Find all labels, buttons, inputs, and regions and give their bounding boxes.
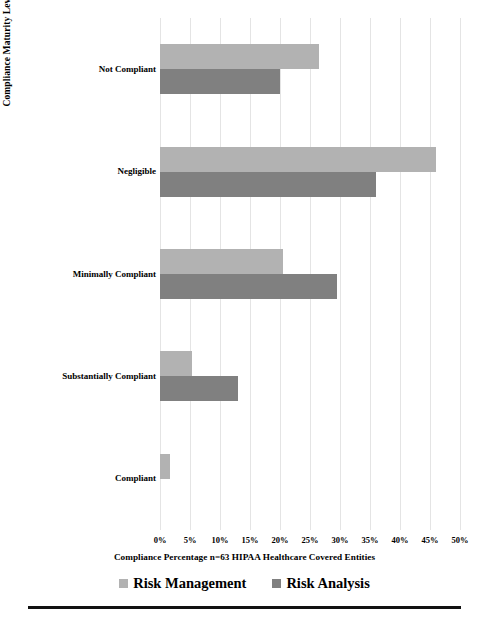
y-axis-label-not-compliant: Not Compliant (4, 64, 156, 75)
y-axis-label-negligible: Negligible (4, 166, 156, 177)
chart-legend: Risk ManagementRisk Analysis (0, 575, 489, 591)
x-tick-50pct: 50% (440, 534, 480, 546)
plot-area (160, 18, 460, 530)
y-axis-category-labels: Not CompliantNegligibleMinimally Complia… (0, 0, 156, 530)
y-axis-label-compliant: Compliant (4, 473, 156, 484)
bar-risk-management-negligible (160, 147, 436, 172)
bottom-divider (28, 606, 461, 609)
gridline-35pct (370, 18, 371, 530)
bar-risk-analysis-substantially-compliant (160, 376, 238, 401)
bar-risk-analysis-negligible (160, 172, 376, 197)
gridline-45pct (430, 18, 431, 530)
bar-risk-management-substantially-compliant (160, 351, 192, 376)
legend-item-risk-management[interactable]: Risk Management (119, 575, 246, 591)
legend-label-risk-management: Risk Management (133, 575, 246, 591)
gridline-40pct (400, 18, 401, 530)
gridline-30pct (340, 18, 341, 530)
bar-risk-management-not-compliant (160, 44, 319, 69)
legend-label-risk-analysis: Risk Analysis (286, 575, 369, 591)
legend-swatch-risk-analysis-icon (272, 579, 281, 588)
y-axis-label-substantially-compliant: Substantially Compliant (4, 371, 156, 382)
bar-risk-management-minimally-compliant (160, 249, 283, 274)
bar-risk-analysis-not-compliant (160, 69, 280, 94)
bar-chart-figure: Compliance Maturity Level Not CompliantN… (0, 0, 489, 630)
gridline-50pct (460, 18, 461, 530)
legend-swatch-risk-management-icon (119, 579, 128, 588)
bar-risk-management-compliant (160, 454, 170, 479)
bar-risk-analysis-minimally-compliant (160, 274, 337, 299)
y-axis-label-minimally-compliant: Minimally Compliant (4, 269, 156, 280)
x-axis-tick-labels: 0%5%10%15%20%25%30%35%40%45%50% (160, 534, 470, 548)
x-axis-title: Compliance Percentage n=63 HIPAA Healthc… (0, 552, 489, 562)
legend-item-risk-analysis[interactable]: Risk Analysis (272, 575, 369, 591)
